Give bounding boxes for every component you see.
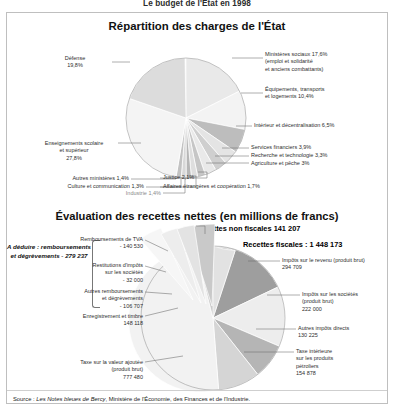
source-divider (7, 390, 387, 391)
source-publication: Les Notes bleues de Bercy (36, 396, 105, 402)
label-enregistrement: Enregistrement et timbre 148 118 (50, 313, 143, 328)
source-prefix: Source : (13, 396, 36, 402)
label-impots-societes: Impôts sur les sociétés (produit brut) 2… (302, 291, 394, 313)
label-tipp: Taxe intérieure sur les produits pétroli… (296, 348, 388, 377)
infographic-page: Le budget de l'État en 1998 Répartition … (0, 0, 394, 416)
label-autres-impots-directs: Autres impôts directs 130 225 (298, 325, 390, 340)
label-autres-remboursements: Autres remboursements et dégrèvements - … (50, 288, 143, 310)
label-impots-revenu: Impôts sur le revenu (produit brut) 294 … (282, 257, 394, 272)
label-restitutions: Restitutions d'impôts sur les sociétés -… (50, 262, 143, 284)
source-rest: , Ministère de l'Économie, des Finances … (105, 396, 250, 402)
label-remboursements-tva: Remboursements de TVA - 140 530 (50, 236, 143, 251)
source-line: Source : Les Notes bleues de Bercy, Mini… (13, 396, 250, 402)
label-tva: Taxe sur la valeur ajoutée (produit brut… (50, 359, 143, 381)
